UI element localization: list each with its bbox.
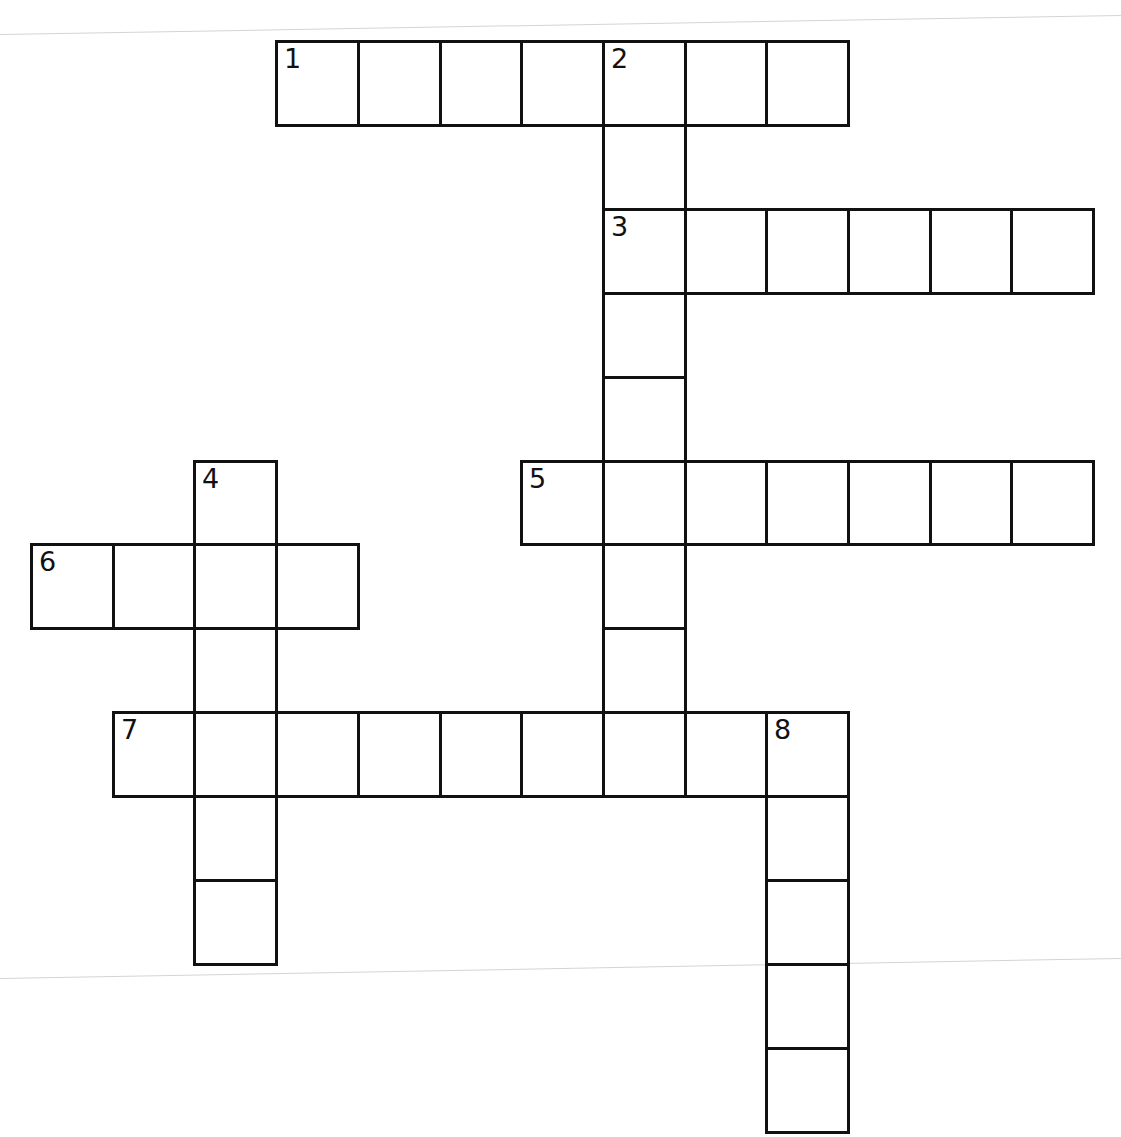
crossword-cell[interactable] [193, 879, 278, 966]
crossword-cell[interactable] [684, 711, 768, 798]
crossword-cell[interactable]: 1 [275, 40, 360, 127]
crossword-cell[interactable] [765, 795, 850, 882]
crossword-cell[interactable]: 8 [765, 711, 850, 798]
crossword-cell[interactable]: 5 [520, 460, 605, 546]
clue-number: 4 [202, 464, 219, 494]
crossword-cell[interactable] [684, 208, 768, 295]
crossword-cell[interactable] [1010, 208, 1095, 295]
crossword-cell[interactable] [357, 40, 442, 127]
crossword-cell[interactable] [275, 711, 360, 798]
crossword-cell[interactable] [602, 292, 687, 379]
crossword-cell[interactable] [847, 208, 932, 295]
crossword-cell[interactable] [602, 711, 687, 798]
crossword-cell[interactable] [602, 460, 687, 546]
crossword-grid: 12345678 [0, 0, 1121, 1137]
crossword-cell[interactable] [847, 460, 932, 546]
crossword-cell[interactable] [602, 627, 687, 714]
crossword-cell[interactable]: 6 [30, 543, 115, 630]
crossword-cell[interactable] [275, 543, 360, 630]
clue-number: 8 [774, 715, 791, 745]
clue-number: 3 [611, 212, 628, 242]
crossword-cell[interactable] [193, 543, 278, 630]
crossword-cell[interactable] [929, 460, 1013, 546]
crossword-cell[interactable] [765, 40, 850, 127]
crossword-cell[interactable] [357, 711, 442, 798]
crossword-cell[interactable] [193, 711, 278, 798]
crossword-cell[interactable]: 4 [193, 460, 278, 546]
clue-number: 6 [39, 547, 56, 577]
crossword-cell[interactable]: 2 [602, 40, 687, 127]
crossword-cell[interactable] [193, 795, 278, 882]
crossword-cell[interactable] [684, 40, 768, 127]
crossword-cell[interactable] [602, 124, 687, 211]
crossword-cell[interactable] [520, 711, 605, 798]
crossword-cell[interactable] [520, 40, 605, 127]
crossword-cell[interactable]: 7 [112, 711, 196, 798]
crossword-cell[interactable] [439, 711, 523, 798]
clue-number: 1 [284, 44, 301, 74]
crossword-cell[interactable] [193, 627, 278, 714]
crossword-cell[interactable] [765, 1047, 850, 1134]
crossword-cell[interactable] [439, 40, 523, 127]
crossword-cell[interactable] [765, 963, 850, 1050]
crossword-cell[interactable] [602, 543, 687, 630]
crossword-cell[interactable] [765, 879, 850, 966]
clue-number: 5 [529, 464, 546, 494]
crossword-cell[interactable] [112, 543, 196, 630]
crossword-cell[interactable] [684, 460, 768, 546]
clue-number: 7 [121, 715, 138, 745]
crossword-cell[interactable] [602, 376, 687, 463]
clue-number: 2 [611, 44, 628, 74]
crossword-cell[interactable] [929, 208, 1013, 295]
crossword-cell[interactable]: 3 [602, 208, 687, 295]
crossword-cell[interactable] [765, 208, 850, 295]
crossword-cell[interactable] [765, 460, 850, 546]
crossword-cell[interactable] [1010, 460, 1095, 546]
